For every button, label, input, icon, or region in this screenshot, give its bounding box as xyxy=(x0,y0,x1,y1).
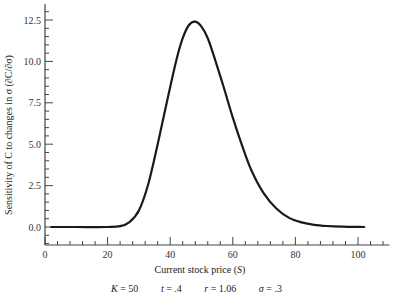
y-tick-label: 12.5 xyxy=(24,15,42,26)
parameter-annotation: K = 50 t = .4 r = 1.06 σ = .3 xyxy=(0,283,393,294)
x-tick-label: 100 xyxy=(351,249,366,260)
x-tick-label: 0 xyxy=(43,249,48,260)
y-tick-label: 2.5 xyxy=(29,180,42,191)
y-axis-title: Sensitivity of C to changes in σ (∂C/∂σ) xyxy=(3,55,15,215)
x-tick-label: 20 xyxy=(103,249,113,260)
param-k: K = 50 xyxy=(111,283,138,294)
param-sigma: σ = .3 xyxy=(259,283,282,294)
sensitivity-curve xyxy=(51,22,364,227)
x-tick-label: 40 xyxy=(165,249,175,260)
y-tick-label: 0.0 xyxy=(29,222,42,233)
param-t: t = .4 xyxy=(161,283,182,294)
chart-canvas: 0.02.55.07.510.012.5020406080100 Current… xyxy=(0,0,393,303)
param-r: r = 1.06 xyxy=(204,283,236,294)
data-curve xyxy=(51,22,364,227)
x-axis-title: Current stock price (S) xyxy=(155,264,246,276)
y-tick-label: 5.0 xyxy=(29,139,42,150)
y-tick-label: 10.0 xyxy=(24,56,42,67)
axes: 0.02.55.07.510.012.5020406080100 xyxy=(24,4,390,260)
x-tick-label: 60 xyxy=(228,249,238,260)
x-tick-label: 80 xyxy=(290,249,300,260)
y-tick-label: 7.5 xyxy=(29,97,42,108)
